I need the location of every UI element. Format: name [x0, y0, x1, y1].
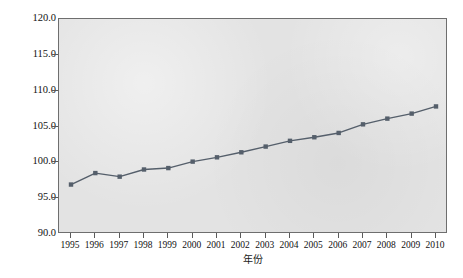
y-tick-label: 110.0 — [22, 85, 56, 95]
y-axis-tick-labels: 120.0115.0110.0105.0100.095.090.0 — [18, 0, 56, 278]
x-tick-mark — [313, 233, 314, 238]
data-point-marker — [239, 150, 243, 154]
data-point-marker — [263, 144, 267, 148]
data-point-marker — [69, 182, 73, 186]
x-tick-mark — [362, 233, 363, 238]
x-tick-mark — [192, 233, 193, 238]
x-tick-mark — [240, 233, 241, 238]
y-tick-label: 95.0 — [22, 192, 56, 202]
data-point-marker — [215, 155, 219, 159]
data-point-marker — [288, 139, 292, 143]
x-axis-title: 年份 — [58, 253, 447, 266]
x-tick-mark — [167, 233, 168, 238]
series-markers — [69, 104, 438, 187]
x-tick-mark — [265, 233, 266, 238]
data-point-marker — [336, 131, 340, 135]
x-tick-mark — [216, 233, 217, 238]
y-tick-mark — [52, 197, 58, 198]
x-tick-mark — [70, 233, 71, 238]
x-tick-mark — [338, 233, 339, 238]
x-tick-label: 2010 — [415, 240, 455, 251]
y-tick-label: 120.0 — [22, 13, 56, 23]
data-point-marker — [434, 104, 438, 108]
data-point-marker — [312, 135, 316, 139]
data-point-marker — [409, 111, 413, 115]
data-point-marker — [142, 167, 146, 171]
y-tick-label: 115.0 — [22, 49, 56, 59]
x-tick-mark — [94, 233, 95, 238]
x-tick-mark — [435, 233, 436, 238]
y-tick-mark — [52, 161, 58, 162]
data-point-marker — [117, 174, 121, 178]
y-tick-label: 105.0 — [22, 121, 56, 131]
data-point-marker — [93, 171, 97, 175]
data-point-marker — [166, 166, 170, 170]
x-tick-mark — [289, 233, 290, 238]
series-line — [71, 106, 436, 184]
chart-figure: 可持续发展能力(1995年全国为100) 120.0115.0110.0105.… — [0, 0, 463, 278]
y-tick-mark — [52, 90, 58, 91]
x-tick-mark — [143, 233, 144, 238]
x-tick-mark — [386, 233, 387, 238]
y-tick-label: 90.0 — [22, 228, 56, 238]
data-point-marker — [190, 159, 194, 163]
y-tick-mark — [52, 54, 58, 55]
x-tick-mark — [411, 233, 412, 238]
y-tick-mark — [52, 126, 58, 127]
data-point-marker — [385, 116, 389, 120]
line-series-svg — [59, 19, 447, 233]
plot-area — [58, 18, 447, 233]
data-point-marker — [361, 122, 365, 126]
x-tick-mark — [119, 233, 120, 238]
y-tick-label: 100.0 — [22, 156, 56, 166]
